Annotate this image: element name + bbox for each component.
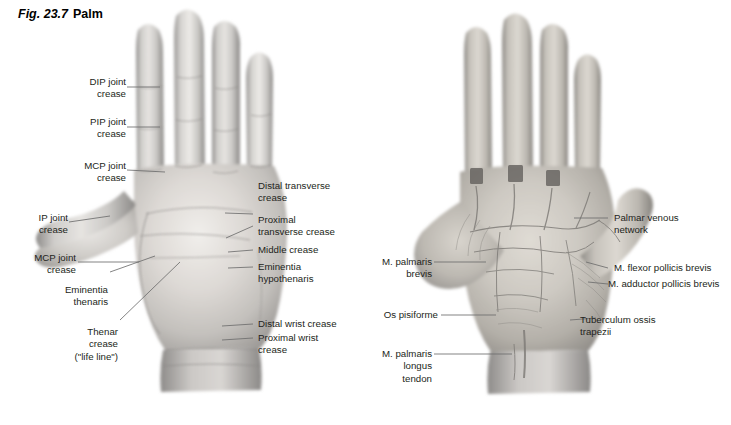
label-palmar-venous-network: Palmar venous network (614, 212, 729, 237)
label-proximal-transverse-crease: Proximal transverse crease (258, 214, 370, 239)
label-eminentia-hypothenaris: Eminentia hypothenaris (258, 261, 370, 286)
label-m-flexor-pollicis-brevis: M. flexor pollicis brevis (614, 262, 731, 274)
label-thenar-crease: Thenar crease ("life line") (50, 326, 118, 363)
label-ip-joint-crease: IP joint crease (0, 212, 68, 237)
label-proximal-wrist-crease: Proximal wrist crease (258, 332, 370, 357)
label-m-palmaris-brevis: M. palmaris brevis (358, 256, 432, 281)
label-tuberculum-ossis-trapezii: Tuberculum ossis trapezii (580, 314, 690, 339)
label-mcp-joint-crease-thumb: MCP joint crease (2, 252, 76, 277)
figure-palm: Fig. 23.7Palm (0, 0, 731, 425)
label-m-adductor-pollicis-brevis: M. adductor pollicis brevis (608, 278, 731, 290)
label-os-pisiforme: Os pisiforme (358, 309, 438, 321)
label-dip-joint-crease: DIP joint crease (26, 76, 126, 101)
label-eminentia-thenaris: Eminentia thenaris (28, 284, 108, 309)
label-distal-transverse-crease: Distal transverse crease (258, 180, 370, 205)
label-middle-crease: Middle crease (258, 244, 370, 256)
label-m-palmaris-longus-tendon: M. palmaris longus tendon (358, 348, 432, 385)
label-mcp-joint-crease-index: MCP joint crease (26, 160, 126, 185)
label-pip-joint-crease: PIP joint crease (26, 116, 126, 141)
label-distal-wrist-crease: Distal wrist crease (258, 318, 370, 330)
